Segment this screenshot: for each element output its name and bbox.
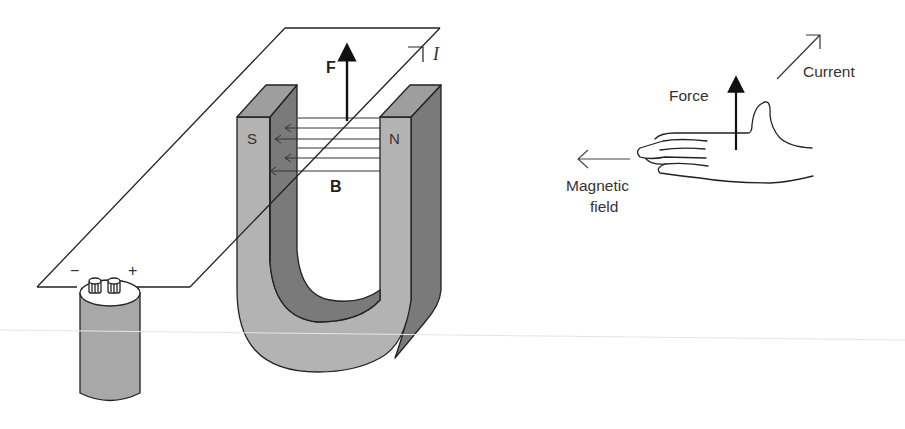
- rhr-current-label: Current: [803, 63, 855, 80]
- right-hand-rule: Force Current Magnetic field: [566, 35, 855, 215]
- rhr-force-label: Force: [669, 87, 709, 104]
- rhr-field-label-line2: field: [590, 198, 618, 215]
- hand-icon: [638, 102, 814, 183]
- battery-negative-label: −: [70, 262, 79, 279]
- field-label-b: B: [330, 178, 342, 195]
- rhr-field-label-line1: Magnetic: [566, 177, 629, 194]
- south-pole-label: S: [247, 130, 257, 147]
- north-pole-label: N: [389, 130, 400, 147]
- current-label-i: I: [432, 44, 440, 64]
- battery: [80, 278, 140, 401]
- negative-terminal: [89, 278, 101, 293]
- battery-body: [80, 293, 140, 401]
- magnet-inner-depth: [270, 85, 380, 322]
- battery-positive-label: +: [128, 262, 137, 279]
- force-label-f: F: [326, 59, 336, 76]
- magnetic-force-diagram: S N B I F: [0, 0, 905, 429]
- rhr-field-arrow-icon: [578, 150, 630, 168]
- positive-terminal: [108, 278, 120, 293]
